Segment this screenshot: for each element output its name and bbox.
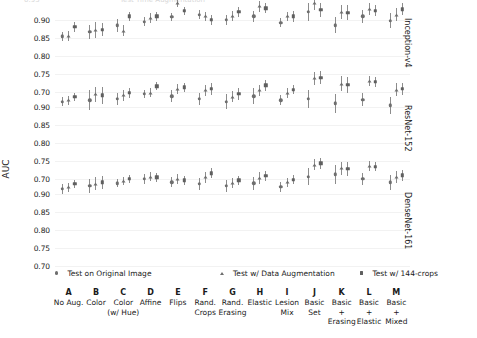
gridline [55,248,410,249]
marker-square [100,181,103,184]
marker-triangle [340,82,344,85]
marker-triangle [258,176,262,179]
marker-circle [170,15,173,18]
data-point [117,148,118,228]
data-point [226,61,227,141]
data-point [396,0,397,54]
data-point [156,0,157,54]
data-point [205,148,206,228]
data-point [369,148,370,228]
marker-triangle [121,94,125,97]
x-tick-M: MBasic+Mixed [373,288,419,327]
clipped-ytick-top: 0.95 [24,0,40,4]
marker-triangle [258,89,262,92]
data-point [320,61,321,141]
figure-canvas: 0.95 Test Time Augmentation AUC 0.700.75… [0,0,477,338]
data-point [74,61,75,141]
marker-square [100,94,103,97]
data-point [102,0,103,54]
data-point [171,0,172,54]
data-point [68,148,69,228]
marker-triangle [340,167,344,170]
y-axis-title: AUC [1,159,11,178]
legend-item-1[interactable]: Test w/ Data Augmentation [220,265,335,281]
marker-triangle [367,80,371,83]
marker-circle [388,103,391,106]
data-point [95,61,96,141]
marker-square [73,95,76,98]
marker-circle [197,97,200,100]
data-point [184,148,185,228]
data-point [341,148,342,228]
x-axis-labels: ANo Aug.BColorCColor(w/ Hue)DAffineEFlip… [55,288,410,334]
y-tick-label: 0.85 [34,34,50,43]
marker-triangle [285,181,289,184]
marker-square [182,9,185,12]
data-point [314,148,315,228]
marker-circle [115,181,118,184]
data-point [117,61,118,141]
marker-triangle [312,163,316,166]
marker-circle [170,94,173,97]
marker-triangle [67,186,71,189]
marker-triangle [231,95,235,98]
x-tick-key: M [373,288,419,298]
data-point [253,0,254,54]
legend-label: Test on Original Image [67,269,151,278]
data-point [335,148,336,228]
legend-item-0[interactable]: Test on Original Image [55,265,152,281]
y-tick-label: 0.90 [34,16,50,25]
marker-circle [197,13,200,16]
data-point [280,0,281,54]
data-point [95,148,96,228]
data-point [287,61,288,141]
x-tick-name-line: Mixed [373,317,419,327]
data-point [144,148,145,228]
marker-triangle [312,1,316,4]
y-tick-label: 0.80 [34,52,50,61]
marker-triangle [231,182,235,185]
marker-square [237,179,240,182]
marker-circle [225,100,228,103]
y-tick-label: 0.80 [34,226,50,235]
data-point [320,148,321,228]
data-point [62,0,63,54]
data-point [171,148,172,228]
data-point [232,148,233,228]
marker-triangle [121,180,125,183]
data-point [232,0,233,54]
data-point [95,0,96,54]
data-point [156,61,157,141]
data-point [144,0,145,54]
data-point [341,61,342,141]
data-point [396,61,397,141]
panel-densenet-161: 0.700.750.800.850.90 [55,188,410,268]
marker-circle [170,181,173,184]
data-point [129,61,130,141]
marker-triangle [176,87,180,90]
marker-triangle [394,13,398,16]
data-point [238,148,239,228]
data-point [341,0,342,54]
data-point [74,148,75,228]
data-point [199,61,200,141]
data-point [287,0,288,54]
gridline [55,56,410,57]
data-point [177,0,178,54]
y-tick-label: 0.80 [34,139,50,148]
data-point [265,61,266,141]
data-point [102,148,103,228]
legend-item-2[interactable]: Test w/ 144-crops [360,265,438,281]
y-tick-label: 0.90 [34,103,50,112]
marker-circle [307,97,310,100]
marker-triangle [367,164,371,167]
data-point [259,148,260,228]
data-point [280,148,281,228]
data-point [89,61,90,141]
data-point [369,61,370,141]
legend-marker-triangle [220,272,224,275]
marker-triangle [394,175,398,178]
y-tick-label: 0.75 [34,244,50,253]
marker-circle [252,181,255,184]
data-point [177,148,178,228]
